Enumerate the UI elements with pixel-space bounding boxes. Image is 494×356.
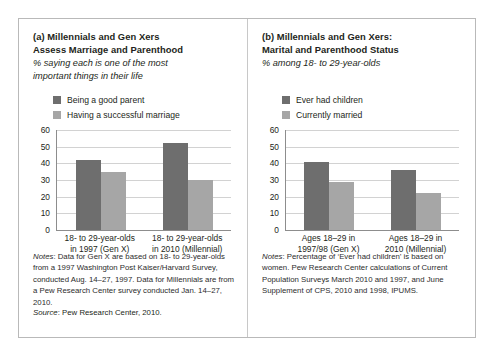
- bar[interactable]: [188, 180, 213, 230]
- y-tick-label: 30: [41, 176, 50, 184]
- panel-b-plot-area: [285, 130, 459, 231]
- y-tick-label: 60: [270, 126, 279, 134]
- panel-a-plot-area: [56, 130, 231, 231]
- y-tick-label: 10: [270, 209, 279, 217]
- panel-a-legend: Being a good parent Having a successful …: [53, 93, 233, 121]
- y-tick-label: 60: [41, 126, 50, 134]
- bar-group: [286, 130, 373, 230]
- legend-item-label: Currently married: [296, 110, 362, 120]
- panel-a-notes-lead: Notes: [33, 252, 53, 261]
- legend-item: Currently married: [282, 108, 461, 121]
- panel-b-notes-text: : Percentage of ‘Ever had children’ is b…: [262, 252, 447, 295]
- legend-swatch-icon: [282, 96, 290, 104]
- legend-swatch-icon: [282, 111, 290, 119]
- legend-swatch-icon: [53, 111, 61, 119]
- y-tick-label: 40: [41, 159, 50, 167]
- y-tick-label: 50: [41, 143, 50, 151]
- panel-a-notes: Notes: Data for Gen X are based on 18- t…: [33, 251, 235, 308]
- bar-group: [144, 130, 231, 230]
- legend-swatch-icon: [53, 96, 61, 104]
- panel-a-subtitle-line2: important things in their life: [33, 71, 143, 81]
- panel-b: (b) Millennials and Gen Xers: Marital an…: [247, 19, 475, 337]
- panel-b-title-line2: Marital and Parenthood Status: [262, 44, 399, 55]
- panel-a: (a) Millennials and Gen Xers Assess Marr…: [19, 19, 247, 337]
- panel-b-plot: 0102030405060 Ages 18–29 in1997/98 (Gen …: [262, 130, 461, 242]
- panel-a-bar-groups: [57, 130, 231, 230]
- legend-item: Ever had children: [282, 93, 461, 106]
- panel-b-bar-groups: [286, 130, 459, 230]
- legend-item: Having a successful marriage: [53, 108, 233, 121]
- panel-a-source-text: : Pew Research Center, 2010.: [58, 308, 162, 317]
- y-tick-label: 0: [45, 226, 50, 234]
- y-tick-label: 10: [41, 209, 50, 217]
- panel-a-plot: 0102030405060 18- to 29-year-oldsin 1997…: [33, 130, 233, 242]
- legend-item: Being a good parent: [53, 93, 233, 106]
- panel-b-subtitle: % among 18- to 29-year-olds: [262, 57, 461, 82]
- panel-a-subtitle: % saying each is one of the most importa…: [33, 57, 233, 82]
- y-tick-label: 0: [274, 226, 279, 234]
- panel-a-notes-text: : Data for Gen X are based on 18- to 29-…: [33, 252, 234, 307]
- panel-b-legend: Ever had children Currently married: [282, 93, 461, 121]
- panel-a-title-line2: Assess Marriage and Parenthood: [33, 44, 183, 55]
- y-tick-label: 20: [41, 193, 50, 201]
- panel-b-title: (b) Millennials and Gen Xers: Marital an…: [262, 31, 461, 56]
- figure-frame: (a) Millennials and Gen Xers Assess Marr…: [18, 18, 476, 338]
- bar-group: [373, 130, 460, 230]
- bar[interactable]: [391, 170, 416, 230]
- bar[interactable]: [416, 193, 441, 230]
- panel-a-source-lead: Source: [33, 308, 58, 317]
- panel-a-title-line1: (a) Millennials and Gen Xers: [33, 31, 159, 42]
- panel-a-title: (a) Millennials and Gen Xers Assess Marr…: [33, 31, 233, 56]
- y-tick-label: 20: [270, 193, 279, 201]
- bar[interactable]: [101, 172, 126, 230]
- bar[interactable]: [76, 160, 101, 230]
- panel-a-y-axis: 0102030405060: [33, 130, 53, 230]
- panel-b-notes: Notes: Percentage of ‘Ever had children’…: [262, 251, 463, 297]
- panel-b-y-axis: 0102030405060: [262, 130, 282, 230]
- panel-a-subtitle-line1: % saying each is one of the most: [33, 58, 168, 68]
- y-tick-label: 30: [270, 176, 279, 184]
- panel-b-title-line1: (b) Millennials and Gen Xers:: [262, 31, 392, 42]
- bar[interactable]: [163, 143, 188, 230]
- legend-item-label: Being a good parent: [67, 95, 144, 105]
- y-tick-label: 50: [270, 143, 279, 151]
- panel-a-source: Source: Pew Research Center, 2010.: [33, 307, 235, 318]
- panel-b-subtitle-line1: % among 18- to 29-year-olds: [262, 58, 380, 68]
- y-tick-label: 40: [270, 159, 279, 167]
- bar[interactable]: [304, 162, 329, 230]
- legend-item-label: Having a successful marriage: [67, 110, 180, 120]
- bar-group: [57, 130, 144, 230]
- panel-b-notes-lead: Notes: [262, 252, 282, 261]
- bar[interactable]: [329, 182, 354, 230]
- legend-item-label: Ever had children: [296, 95, 363, 105]
